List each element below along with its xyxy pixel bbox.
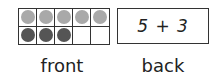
ten-frame-cell [73,27,91,45]
ten-frame-cell [73,9,91,27]
ten-frame-cell [55,9,73,27]
ten-frame-cell [55,27,73,45]
counter-dot-icon [93,10,107,24]
ten-frame-cell [19,9,37,27]
ten-frame-cell [37,9,55,27]
counter-dot-icon [57,28,71,42]
addition-expression: 5 + 3 [137,16,189,36]
flash-card-back: 5 + 3 [117,8,209,44]
counter-dot-icon [21,28,35,42]
counter-dot-icon [57,10,71,24]
counter-dot-icon [75,10,89,24]
ten-frame-cell [91,27,109,45]
front-label: front [16,55,108,76]
ten-frame-cell [91,9,109,27]
ten-frame-cell [37,27,55,45]
ten-frame-cell [19,27,37,45]
counter-dot-icon [39,10,53,24]
back-label: back [117,55,209,76]
counter-dot-icon [39,28,53,42]
counter-dot-icon [21,10,35,24]
ten-frame-card-front [18,8,110,45]
